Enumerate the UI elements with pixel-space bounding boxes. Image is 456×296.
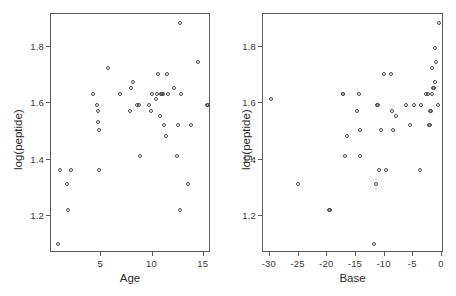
y-axis-title-base: log(peptide) [240, 109, 252, 170]
x-tick-label: -30 [262, 258, 276, 269]
figure-canvas: 510151.21.41.61.8 Age log(peptide) -30-2… [0, 0, 456, 296]
data-point [377, 168, 381, 172]
data-point [382, 72, 386, 76]
data-point [394, 114, 398, 118]
x-tick-mark [298, 252, 299, 256]
data-point [161, 92, 165, 96]
data-point [404, 103, 408, 107]
data-point [432, 86, 436, 90]
y-tick-label: 1.2 [18, 210, 44, 221]
data-point [358, 154, 362, 158]
x-tick-mark [384, 252, 385, 256]
data-point [128, 109, 132, 113]
data-point [189, 123, 193, 127]
data-point [428, 123, 432, 127]
data-point [154, 97, 158, 101]
x-tick-label: 15 [197, 258, 208, 269]
data-point [429, 109, 433, 113]
data-point [164, 134, 168, 138]
data-point [389, 72, 393, 76]
y-tick-mark [258, 215, 262, 216]
y-tick-mark [46, 102, 50, 103]
data-point [384, 168, 388, 172]
x-tick-mark [412, 252, 413, 256]
x-tick-label: 10 [146, 258, 157, 269]
y-axis-title-age: log(peptide) [12, 109, 24, 170]
y-tick-label: 1.6 [230, 97, 256, 108]
plot-frame-age [50, 13, 210, 252]
data-point [355, 109, 359, 113]
x-tick-mark [203, 252, 204, 256]
data-point [96, 109, 100, 113]
x-tick-label: -15 [348, 258, 362, 269]
data-point [91, 92, 95, 96]
y-tick-mark [46, 46, 50, 47]
x-tick-label: -25 [290, 258, 304, 269]
x-tick-label: -5 [408, 258, 417, 269]
data-point [206, 103, 210, 107]
data-point [172, 86, 176, 90]
data-point [165, 72, 169, 76]
x-axis-title-age: Age [120, 272, 140, 284]
data-point [328, 208, 332, 212]
x-tick-mark [100, 252, 101, 256]
x-tick-mark [152, 252, 153, 256]
data-point [390, 109, 394, 113]
y-tick-mark [46, 159, 50, 160]
data-point [118, 92, 122, 96]
data-point [149, 109, 153, 113]
x-tick-label: -20 [319, 258, 333, 269]
data-point [129, 86, 133, 90]
data-point [430, 66, 434, 70]
data-point [296, 182, 300, 186]
data-point [408, 123, 412, 127]
y-tick-label: 1.8 [18, 40, 44, 51]
x-tick-label: -10 [376, 258, 390, 269]
x-tick-label: 5 [98, 258, 103, 269]
y-tick-mark [258, 102, 262, 103]
data-point [437, 21, 441, 25]
data-point [162, 123, 166, 127]
x-tick-mark [269, 252, 270, 256]
y-tick-mark [258, 46, 262, 47]
plot-frame-base [262, 13, 443, 252]
scatter-panel-age: 510151.21.41.61.8 Age log(peptide) [0, 0, 228, 296]
data-point [166, 92, 170, 96]
y-tick-label: 1.6 [18, 97, 44, 108]
data-point [69, 168, 73, 172]
x-tick-mark [441, 252, 442, 256]
data-point [179, 92, 183, 96]
y-tick-mark [258, 159, 262, 160]
x-tick-mark [326, 252, 327, 256]
x-tick-label: 0 [438, 258, 443, 269]
data-point [176, 123, 180, 127]
data-point [56, 242, 60, 246]
data-point [374, 182, 378, 186]
scatter-panel-base: -30-25-20-15-10-501.21.41.61.8 Base log(… [228, 0, 456, 296]
data-point [150, 92, 154, 96]
y-tick-label: 1.8 [230, 40, 256, 51]
data-point [376, 103, 380, 107]
data-point [357, 92, 361, 96]
x-tick-mark [355, 252, 356, 256]
data-point [412, 103, 416, 107]
data-point [343, 154, 347, 158]
y-tick-label: 1.2 [230, 210, 256, 221]
data-point [156, 72, 160, 76]
data-point [158, 114, 162, 118]
data-point [436, 103, 440, 107]
x-axis-title-base: Base [339, 272, 365, 284]
y-tick-mark [46, 215, 50, 216]
data-point [178, 208, 182, 212]
data-point [175, 154, 179, 158]
data-point [372, 242, 376, 246]
data-point [419, 103, 423, 107]
